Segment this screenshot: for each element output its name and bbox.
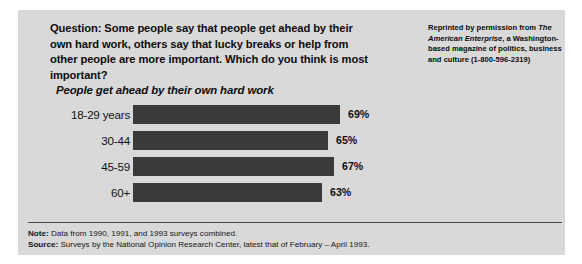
bar-row: 30-4465% [18,131,565,157]
footnote-label: Note: [28,229,49,238]
footnote-text: Data from 1990, 1991, and 1993 surveys c… [49,229,238,238]
bar-value-label: 69% [348,105,369,124]
bar-fill [133,183,322,202]
bar-track: 67% [133,157,433,176]
bar-fill [133,131,328,150]
chart-subtitle: People get ahead by their own hard work [56,84,274,96]
bar-value-label: 65% [336,131,357,150]
footnote-label: Source: [28,240,58,249]
question-text: Question: Some people say that people ge… [50,21,370,83]
bar-fill [133,157,334,176]
bar-category-label: 60+ [18,183,130,202]
footnote-line: Source: Surveys by the National Opinion … [28,239,562,250]
bar-track: 69% [133,105,433,124]
bar-row: 18-29 years69% [18,105,565,131]
bar-track: 63% [133,183,433,202]
bar-fill [133,105,340,124]
figure-panel: Question: Some people say that people ge… [18,10,565,255]
footnote-line: Note: Data from 1990, 1991, and 1993 sur… [28,228,562,239]
bar-value-label: 63% [330,183,351,202]
reprint-notice: Reprinted by permission from The America… [428,23,568,65]
footnote-text: Surveys by the National Opinion Research… [58,240,369,249]
footnotes: Note: Data from 1990, 1991, and 1993 sur… [28,228,562,251]
bar-chart: 18-29 years69%30-4465%45-5967%60+63% [18,105,565,210]
bar-category-label: 45-59 [18,157,130,176]
bar-value-label: 67% [342,157,363,176]
bar-category-label: 18-29 years [18,105,130,124]
reprint-line-5: culture (1-800-596-2319) [444,55,531,64]
reprint-line-2: , a [502,34,510,43]
bar-row: 45-5967% [18,157,565,183]
bar-category-label: 30-44 [18,131,130,150]
figure-header: Question: Some people say that people ge… [18,10,565,102]
bar-track: 65% [133,131,433,150]
bar-row: 60+63% [18,183,565,209]
reprint-line-1: Reprinted by permission from [428,23,536,32]
footer-divider [28,222,562,223]
